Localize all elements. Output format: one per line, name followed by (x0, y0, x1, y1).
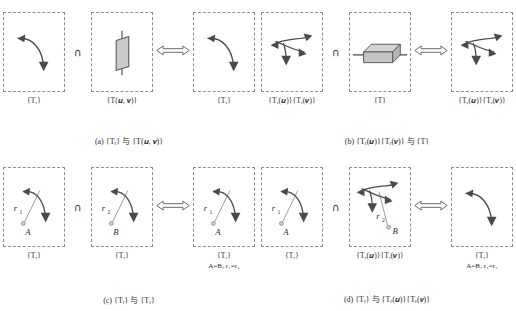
rotation-with-axis-icon: r 1 A (4, 168, 64, 246)
dashed-box: r 1 A (3, 167, 65, 247)
panel-b-row: {Tᵣ(𝒖)}{Tᵣ(𝒗)} ∩ {T} (258, 12, 516, 100)
svg-text:1: 1 (209, 209, 212, 215)
panel-c-box-1: r 1 A {Tᵣ} (3, 167, 65, 261)
double-rotation-arrows-icon (262, 13, 322, 91)
double-headed-hollow-arrow-icon (413, 198, 449, 213)
intersection-operator: ∩ (323, 46, 349, 59)
dashed-box (451, 167, 513, 247)
rotation-arrow-icon (4, 13, 64, 91)
svg-text:1: 1 (19, 209, 22, 215)
box-label: {Tᵣ} (285, 252, 299, 261)
box-label: {Tᵣ(𝒖)}{Tᵣ(𝒗)} (458, 97, 505, 106)
dashed-box (349, 12, 411, 92)
dashed-box (451, 12, 513, 92)
svg-text:2: 2 (382, 217, 385, 223)
panel-caption: (d) {Tᵣ} 与 {Tᵣ(𝒖)}{Tᵣ(𝒗)} (258, 293, 516, 305)
equivalence-connector (153, 43, 193, 58)
svg-text:B: B (113, 227, 119, 237)
intersection-operator: ∩ (323, 201, 349, 214)
panel-c-row: r 1 A {Tᵣ} ∩ (0, 167, 258, 255)
box-label: {Tᵣ} (217, 252, 231, 261)
svg-text:A: A (24, 227, 31, 237)
box-label: {T(𝒖, 𝒗)} (107, 97, 137, 106)
box-label: {Tᵣ} (27, 252, 41, 261)
svg-text:B: B (393, 226, 399, 236)
rotation-with-axis-icon: r 1 A (262, 168, 322, 246)
panel-a-box-3: {Tᵣ} (193, 12, 255, 106)
box-label: {Tᵣ} (27, 97, 41, 106)
panel-caption: (b) {Tᵣ(𝒖)}{Tᵣ(𝒗)} 与 {T} (258, 135, 516, 147)
panel-c: r 1 A {Tᵣ} ∩ (0, 155, 258, 311)
panel-d: r 1 A {Tᵣ} ∩ (258, 155, 516, 311)
svg-text:r: r (14, 203, 18, 213)
panel-b-box-2: {T} (349, 12, 411, 106)
double-headed-hollow-arrow-icon (413, 43, 449, 58)
double-rotation-arrows-icon (452, 13, 512, 91)
dashed-box: r 1 A (193, 167, 255, 247)
dashed-box (3, 12, 65, 92)
rotation-arrow-icon (194, 13, 254, 91)
panel-b-box-1: {Tᵣ(𝒖)}{Tᵣ(𝒗)} (261, 12, 323, 106)
equivalence-connector (153, 198, 193, 213)
svg-text:2: 2 (107, 209, 110, 215)
panel-caption: (c) {Tᵣ} 与 {Tᵣ} (0, 294, 258, 305)
mirror-plane-icon (92, 13, 152, 91)
box-sublabel: A=B, r₁=r₂ (466, 262, 498, 270)
svg-text:r: r (204, 203, 208, 213)
panel-caption: (a) {Tᵣ} 与 {T(𝒖, 𝒗)} (0, 135, 258, 147)
dashed-box (91, 12, 153, 92)
panel-a-box-1: {Tᵣ} (3, 12, 65, 106)
dashed-box: r 2 B (349, 167, 411, 247)
equivalence-connector (411, 198, 451, 213)
figure-grid: {Tᵣ} ∩ {T(𝒖, 𝒗)} (0, 0, 516, 311)
svg-text:A: A (282, 227, 289, 237)
dashed-box (193, 12, 255, 92)
svg-text:r: r (376, 211, 380, 221)
box-label: {Tᵣ} (217, 97, 231, 106)
panel-d-box-3: {Tᵣ} A=B, r₁=r₂ (451, 167, 513, 270)
svg-text:r: r (102, 203, 106, 213)
panel-d-row: r 1 A {Tᵣ} ∩ (258, 167, 516, 255)
intersection-operator: ∩ (65, 46, 91, 59)
panel-c-box-3: r 1 A {Tᵣ} A=B, r₁=r₂ (193, 167, 255, 270)
dashed-box: r 2 B (91, 167, 153, 247)
panel-a: {Tᵣ} ∩ {T(𝒖, 𝒗)} (0, 0, 258, 155)
double-headed-hollow-arrow-icon (155, 43, 191, 58)
panel-a-box-2: {T(𝒖, 𝒗)} (91, 12, 153, 106)
rotation-with-axis-icon: r 1 A (194, 168, 254, 246)
box-label: {Tᵣ(𝒖)}{Tᵣ(𝒗)} (268, 97, 315, 106)
box-label: {Tᵣ} (475, 252, 489, 261)
panel-a-row: {Tᵣ} ∩ {T(𝒖, 𝒗)} (0, 12, 258, 100)
panel-d-box-1: r 1 A {Tᵣ} (261, 167, 323, 261)
dashed-box: r 1 A (261, 167, 323, 247)
panel-b: {Tᵣ(𝒖)}{Tᵣ(𝒗)} ∩ {T} (258, 0, 516, 155)
box-label: {Tᵣ} (115, 252, 129, 261)
double-headed-hollow-arrow-icon (155, 198, 191, 213)
box-sublabel: A=B, r₁=r₂ (208, 262, 240, 270)
svg-text:A: A (214, 227, 221, 237)
panel-b-box-3: {Tᵣ(𝒖)}{Tᵣ(𝒗)} (451, 12, 513, 106)
axis-box-icon (350, 13, 410, 91)
box-label: {T} (374, 97, 386, 106)
double-rotation-with-axis-icon: r 2 B (350, 168, 410, 246)
rotation-arrow-icon (452, 168, 512, 246)
panel-d-box-2: r 2 B {Tᵣ(𝒖)}{Tᵣ(𝒗)} (349, 167, 411, 261)
intersection-operator: ∩ (65, 201, 91, 214)
rotation-with-axis-icon: r 2 B (92, 168, 152, 246)
panel-c-box-2: r 2 B {Tᵣ} (91, 167, 153, 261)
equivalence-connector (411, 43, 451, 58)
dashed-box (261, 12, 323, 92)
svg-text:r: r (272, 203, 276, 213)
svg-text:1: 1 (277, 209, 280, 215)
box-label: {Tᵣ(𝒖)}{Tᵣ(𝒗)} (356, 252, 403, 261)
